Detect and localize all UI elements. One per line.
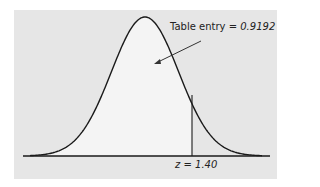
- shaded-area: [30, 17, 192, 156]
- annotation-equals: =: [229, 21, 237, 32]
- annotation-value: 0.9192: [240, 21, 275, 32]
- table-entry-annotation: Table entry = 0.9192: [170, 21, 275, 32]
- annotation-label: Table entry: [170, 21, 225, 32]
- z-value: 1.40: [195, 159, 217, 170]
- z-symbol: z: [175, 159, 180, 170]
- z-equals: =: [183, 159, 191, 170]
- z-label: z = 1.40: [175, 159, 217, 170]
